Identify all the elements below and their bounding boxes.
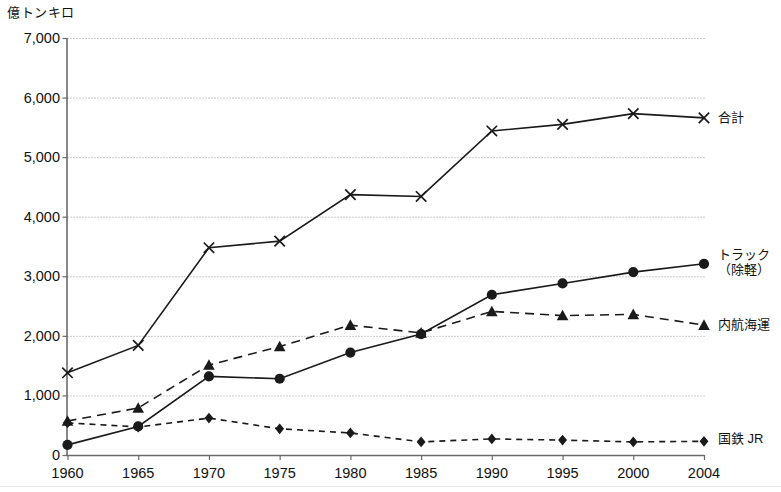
y-tick-label: 5,000 xyxy=(8,149,60,165)
series-label-truck: トラック （除軽） xyxy=(718,247,770,277)
series-line xyxy=(68,311,705,421)
y-tick-label: 7,000 xyxy=(8,30,60,46)
series-label-coastal-shipping: 内航海運 xyxy=(718,317,770,332)
series-line xyxy=(68,264,705,445)
chart-plot-area xyxy=(0,0,781,492)
series-1 xyxy=(62,259,709,450)
x-tick-label: 2004 xyxy=(674,465,734,481)
data-point-marker-cross xyxy=(133,340,143,350)
data-point-marker-circle xyxy=(628,267,638,277)
data-point-marker-triangle xyxy=(132,402,144,413)
data-point-marker-diamond xyxy=(417,436,426,447)
y-tick-label: 6,000 xyxy=(8,90,60,106)
data-point-marker-triangle xyxy=(627,309,639,320)
y-tick-label: 3,000 xyxy=(8,268,60,284)
freight-transport-line-chart: 億トンキロ 7,0006,0005,0004,0003,0002,0001,00… xyxy=(0,0,781,492)
series-label-total-text: 合計 xyxy=(718,110,744,125)
data-point-marker-circle xyxy=(557,278,567,288)
x-tick-label: 1975 xyxy=(250,465,310,481)
series-label-coastal-text: 内航海運 xyxy=(718,317,770,332)
data-point-marker-circle xyxy=(62,440,72,450)
series-label-truck-line2: （除軽） xyxy=(718,262,770,277)
data-point-marker-triangle xyxy=(345,319,357,330)
data-point-marker-diamond xyxy=(275,423,284,434)
series-label-truck-line1: トラック xyxy=(718,247,770,262)
data-point-marker-circle xyxy=(345,347,355,357)
x-tick-label: 1985 xyxy=(391,465,451,481)
data-point-marker-diamond xyxy=(63,417,72,428)
data-point-marker-diamond xyxy=(346,428,355,439)
x-tick-label: 1995 xyxy=(533,465,593,481)
data-point-marker-circle xyxy=(487,290,497,300)
data-point-marker-diamond xyxy=(487,434,496,445)
series-3 xyxy=(63,413,708,448)
series-0 xyxy=(62,108,709,378)
x-tick-label: 1980 xyxy=(320,465,380,481)
series-label-rail-jr: 国鉄 JR xyxy=(718,431,764,446)
bottom-divider xyxy=(0,486,781,487)
data-point-marker-circle xyxy=(204,371,214,381)
y-tick-label: 4,000 xyxy=(8,209,60,225)
y-tick-label: 1,000 xyxy=(8,387,60,403)
y-tick-label: 2,000 xyxy=(8,328,60,344)
x-tick-label: 2000 xyxy=(603,465,663,481)
data-point-marker-circle xyxy=(275,374,285,384)
series-line xyxy=(68,114,705,373)
axis-lines xyxy=(67,38,705,456)
x-tick-label: 1965 xyxy=(108,465,168,481)
series-label-total: 合計 xyxy=(718,110,744,125)
y-tick-label: 0 xyxy=(8,447,60,463)
data-point-marker-circle xyxy=(699,259,709,269)
series-2 xyxy=(62,306,710,426)
x-tick-label: 1960 xyxy=(38,465,98,481)
data-point-marker-diamond xyxy=(629,436,638,447)
series-label-rail-text: 国鉄 JR xyxy=(718,431,764,446)
data-point-marker-diamond xyxy=(700,436,709,447)
data-point-marker-diamond xyxy=(558,435,567,446)
x-tick-label: 1970 xyxy=(179,465,239,481)
x-tick-label: 1990 xyxy=(462,465,522,481)
data-point-marker-diamond xyxy=(205,413,214,424)
series-line xyxy=(68,418,705,442)
data-point-marker-triangle xyxy=(698,319,710,330)
